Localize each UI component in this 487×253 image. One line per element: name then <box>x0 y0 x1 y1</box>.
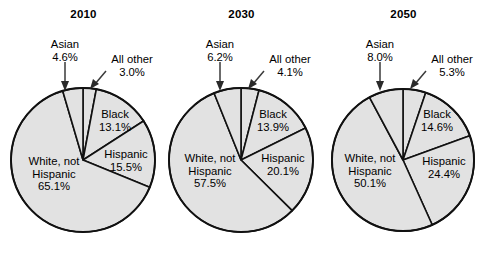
slice-label-all-other-value: 3.0% <box>97 66 167 79</box>
slice-label-white-line1: White, not <box>12 155 96 168</box>
slice-label-hispanic-value: 15.5% <box>90 161 162 174</box>
slice-label-asian: Asian 4.6% <box>30 38 100 63</box>
slice-label-white-not-hispanic: White, not Hispanic 50.1% <box>328 152 412 190</box>
slice-label-black-name: Black <box>85 108 145 121</box>
slice-label-all-other-name: All other <box>97 53 167 66</box>
slice-label-white-line2: Hispanic <box>12 168 96 181</box>
slice-label-white-line1: White, not <box>328 152 412 165</box>
slice-label-asian-value: 8.0% <box>345 51 415 64</box>
slice-label-asian: Asian 6.2% <box>185 38 255 63</box>
slice-label-hispanic-name: Hispanic <box>408 155 480 168</box>
slice-label-hispanic-value: 20.1% <box>247 165 319 178</box>
slice-label-white-line2: Hispanic <box>328 165 412 178</box>
slice-label-white-not-hispanic: White, not Hispanic 57.5% <box>168 152 252 190</box>
slice-label-all-other: All other 3.0% <box>97 53 167 78</box>
slice-label-asian-value: 4.6% <box>30 51 100 64</box>
slice-label-white-value: 50.1% <box>328 177 412 190</box>
pie-panel-2010: 2010 Asian 4.6% All other 3.0% Black 13.… <box>2 0 165 253</box>
slice-label-white-line1: White, not <box>168 152 252 165</box>
slice-label-hispanic-value: 24.4% <box>408 168 480 181</box>
slice-label-white-value: 57.5% <box>168 177 252 190</box>
pie-panel-2030: 2030 Asian 6.2% All other 4.1% Black 13.… <box>160 0 323 253</box>
slice-label-all-other: All other 5.3% <box>417 53 487 78</box>
slice-label-all-other-name: All other <box>255 53 325 66</box>
callout-asian <box>376 62 384 91</box>
callout-asian <box>61 62 69 91</box>
slice-label-black-name: Black <box>243 108 303 121</box>
slice-label-black-name: Black <box>407 108 467 121</box>
slice-label-asian-value: 6.2% <box>185 51 255 64</box>
slice-label-all-other-value: 4.1% <box>255 66 325 79</box>
slice-label-hispanic: Hispanic 20.1% <box>247 152 319 177</box>
slice-label-hispanic-name: Hispanic <box>247 152 319 165</box>
slice-label-all-other-value: 5.3% <box>417 66 487 79</box>
slice-label-black-value: 14.6% <box>407 121 467 134</box>
slice-label-black: Black 14.6% <box>407 108 467 133</box>
pie-panel-2050: 2050 Asian 8.0% All other 5.3% Black 14.… <box>322 0 485 253</box>
slice-label-white-not-hispanic: White, not Hispanic 65.1% <box>12 155 96 193</box>
slice-label-black: Black 13.1% <box>85 108 145 133</box>
slice-label-hispanic: Hispanic 15.5% <box>90 148 162 173</box>
slice-label-black-value: 13.9% <box>243 121 303 134</box>
slice-label-hispanic-name: Hispanic <box>90 148 162 161</box>
slice-label-white-value: 65.1% <box>12 180 96 193</box>
callout-asian <box>216 62 224 91</box>
slice-label-all-other-name: All other <box>417 53 487 66</box>
slice-label-all-other: All other 4.1% <box>255 53 325 78</box>
slice-label-asian-name: Asian <box>30 38 100 51</box>
slice-label-white-line2: Hispanic <box>168 165 252 178</box>
slice-label-asian-name: Asian <box>185 38 255 51</box>
pie-chart-figure: 2010 Asian 4.6% All other 3.0% Black 13.… <box>0 0 487 253</box>
slice-label-black-value: 13.1% <box>85 121 145 134</box>
slice-label-black: Black 13.9% <box>243 108 303 133</box>
slice-label-asian-name: Asian <box>345 38 415 51</box>
slice-label-asian: Asian 8.0% <box>345 38 415 63</box>
slice-label-hispanic: Hispanic 24.4% <box>408 155 480 180</box>
